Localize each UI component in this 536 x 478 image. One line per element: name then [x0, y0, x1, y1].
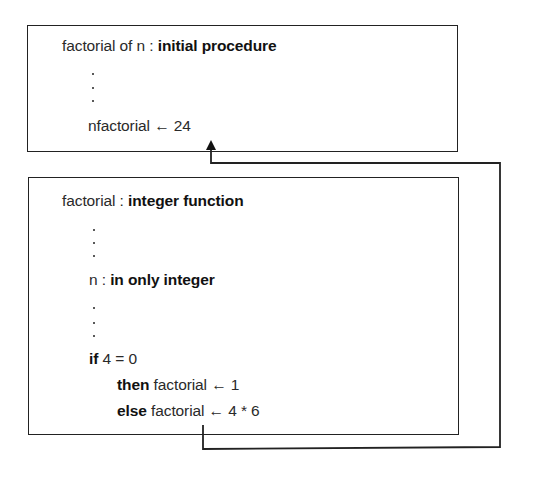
return-connector-arrow — [0, 0, 536, 478]
arrowhead-icon — [206, 140, 216, 150]
